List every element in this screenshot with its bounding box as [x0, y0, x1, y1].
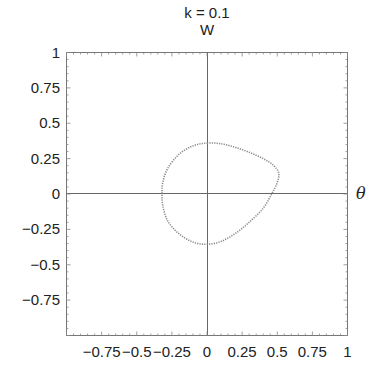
x-tick-label: 0.75	[298, 343, 327, 360]
x-tick-label: 0	[203, 343, 211, 360]
x-tick-label: −0.75	[83, 343, 121, 360]
y-tick-label: −0.5	[30, 256, 60, 273]
x-tick-labels: −0.75−0.5−0.2500.250.50.751	[83, 343, 352, 360]
x-axis-label: θ	[356, 184, 366, 203]
y-tick-label: 0.25	[31, 150, 60, 167]
x-tick-label: −0.5	[122, 343, 152, 360]
x-tick-label: 1	[343, 343, 351, 360]
y-tick-label: −0.75	[22, 291, 60, 308]
y-tick-label: 1	[52, 44, 60, 61]
y-tick-label: 0.75	[31, 79, 60, 96]
plot: 10.750.50.250−0.25−0.5−0.75 −0.75−0.5−0.…	[0, 0, 374, 371]
y-tick-label: 0.5	[39, 114, 60, 131]
x-tick-label: 0.25	[228, 343, 257, 360]
y-tick-labels: 10.750.50.250−0.25−0.5−0.75	[22, 44, 60, 309]
x-tick-label: −0.25	[153, 343, 191, 360]
y-tick-label: −0.25	[22, 220, 60, 237]
y-tick-label: 0	[52, 185, 60, 202]
x-tick-label: 0.5	[267, 343, 288, 360]
